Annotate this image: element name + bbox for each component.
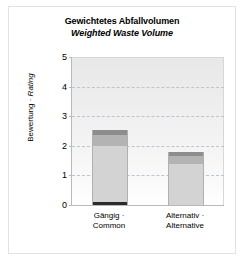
bar[interactable] (92, 130, 128, 205)
y-tick-label-1: 1 (62, 170, 67, 180)
segment-top (93, 130, 127, 136)
x-category-label-line: Alternativ · (135, 211, 235, 221)
y-tick-label-4: 4 (62, 82, 67, 92)
y-tick-mark-5 (69, 57, 72, 58)
y-tick-mark-3 (69, 116, 72, 117)
bar[interactable] (168, 152, 204, 205)
y-tick-mark-0 (69, 205, 72, 206)
x-category-label: Alternativ ·Alternative (135, 211, 235, 231)
y-tick-label-5: 5 (62, 52, 67, 62)
y-tick-label-3: 3 (62, 111, 67, 121)
chart-frame: Gewichtetes Abfallvolumen Weighted Waste… (8, 6, 236, 254)
segment-base (93, 202, 127, 205)
plot-border-right (223, 57, 224, 205)
segment-body (93, 146, 127, 202)
plot-border-top (72, 57, 224, 58)
segment-mid (169, 156, 203, 163)
gridline-3 (72, 116, 224, 117)
plot-area: 012345 (71, 57, 224, 206)
y-axis-title-de: Bewertung · (26, 96, 35, 141)
y-axis-title: Bewertung · Rating (26, 53, 35, 163)
chart-title-block: Gewichtetes Abfallvolumen Weighted Waste… (9, 15, 235, 39)
segment-top (169, 152, 203, 156)
segment-body (169, 164, 203, 205)
y-axis-title-en: Rating (26, 73, 35, 96)
chart-title-de: Gewichtetes Abfallvolumen (9, 15, 235, 27)
y-tick-mark-4 (69, 87, 72, 88)
gridline-4 (72, 87, 224, 88)
y-tick-mark-1 (69, 175, 72, 176)
y-tick-mark-2 (69, 146, 72, 147)
y-tick-label-0: 0 (62, 200, 67, 210)
segment-mid (93, 135, 127, 145)
y-tick-label-2: 2 (62, 141, 67, 151)
chart-title-en: Weighted Waste Volume (9, 27, 235, 39)
x-category-label-line: Alternative (135, 221, 235, 231)
